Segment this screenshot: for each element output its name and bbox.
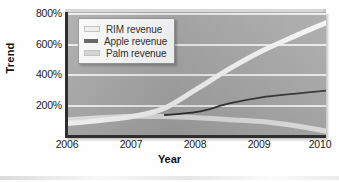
y-tick-label: 600% <box>2 38 62 50</box>
legend-item-palm: Palm revenue <box>84 47 167 59</box>
legend-item-apple: Apple revenue <box>84 35 167 47</box>
y-tick-label: 800% <box>2 7 62 19</box>
legend-label: Palm revenue <box>106 48 167 59</box>
x-axis-title: Year <box>0 153 339 165</box>
x-tick-label: 2008 <box>173 138 217 150</box>
x-tick-label: 2010 <box>298 138 339 150</box>
legend-swatch-icon <box>84 26 100 32</box>
legend-swatch-icon <box>84 50 100 56</box>
legend-label: Apple revenue <box>104 36 167 47</box>
x-tick-label: 2006 <box>45 138 89 150</box>
scan-artifact <box>0 176 339 180</box>
legend-item-rim: RIM revenue <box>84 23 167 35</box>
legend-label: RIM revenue <box>106 24 162 35</box>
legend-swatch-icon <box>84 39 98 43</box>
x-tick-label: 2007 <box>109 138 153 150</box>
x-tick-label: 2009 <box>237 138 281 150</box>
x-axis-tick-labels: 2006 2007 2008 2009 2010 <box>0 138 339 154</box>
plot-area: RIM revenue Apple revenue Palm revenue <box>65 12 326 138</box>
y-tick-label: 200% <box>2 99 62 111</box>
chart-figure: Trend 800% 600% 400% 200% RIM revenue <box>0 0 339 182</box>
chart-legend: RIM revenue Apple revenue Palm revenue <box>78 18 175 64</box>
y-tick-label: 400% <box>2 68 62 80</box>
